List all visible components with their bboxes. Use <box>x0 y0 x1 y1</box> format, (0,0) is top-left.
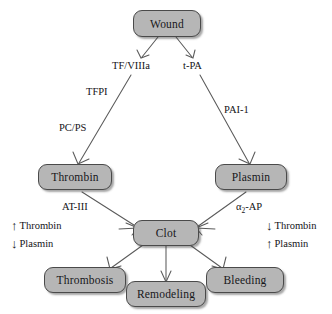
node-wound-label: Wound <box>150 18 184 30</box>
node-thrombin[interactable]: Thrombin <box>38 164 112 190</box>
edge-label-t-pa: t-PA <box>183 60 202 71</box>
annotation-left-thrombin-label: Thrombin <box>20 220 62 231</box>
annotation-left-thrombin: ↑ Thrombin <box>11 219 62 232</box>
alpha2-ap-suffix: -AP <box>245 201 262 212</box>
arrowhead-tfviiia-thrombin <box>73 152 89 164</box>
arrowhead-tpa-plasmin <box>239 152 255 164</box>
up-arrow-icon: ↑ <box>11 219 18 232</box>
node-thrombosis-label: Thrombosis <box>57 274 114 286</box>
node-clot[interactable]: Clot <box>133 220 199 246</box>
node-bleeding-label: Bleeding <box>223 274 266 286</box>
annotation-left-plasmin-label: Plasmin <box>20 238 54 249</box>
edge-tpa-plasmin <box>200 75 249 163</box>
edge-label-tfpi: TFPI <box>86 86 108 97</box>
node-clot-label: Clot <box>156 227 177 239</box>
node-wound[interactable]: Wound <box>133 10 201 37</box>
annotation-right-plasmin-label: Plasmin <box>275 238 309 249</box>
node-thrombin-label: Thrombin <box>51 171 99 183</box>
down-arrow-icon: ↓ <box>266 219 273 232</box>
edge-label-pai-1: PAI-1 <box>224 104 249 115</box>
edge-label-pc-ps: PC/PS <box>59 122 86 133</box>
edge-label-at-iii: AT-III <box>62 201 88 212</box>
node-remodeling[interactable]: Remodeling <box>126 281 206 307</box>
edge-label-tf-viiia: TF/VIIIa <box>112 60 150 71</box>
node-bleeding[interactable]: Bleeding <box>206 267 284 293</box>
annotation-right-thrombin-label: Thrombin <box>275 220 317 231</box>
down-arrow-icon: ↓ <box>11 237 18 250</box>
node-plasmin[interactable]: Plasmin <box>215 164 287 190</box>
diagram-canvas: Wound Thrombin Plasmin Clot Thrombosis R… <box>0 0 332 314</box>
up-arrow-icon: ↑ <box>266 237 273 250</box>
edge-clot-bleeding <box>190 245 222 268</box>
edge-thrombin-clot <box>82 192 137 227</box>
edge-wound-tfviiia <box>142 37 158 57</box>
annotation-left-plasmin: ↓ Plasmin <box>11 237 53 250</box>
node-thrombosis[interactable]: Thrombosis <box>44 267 126 293</box>
node-remodeling-label: Remodeling <box>137 288 195 300</box>
edge-wound-tpa <box>176 37 192 57</box>
annotation-right-thrombin: ↓ Thrombin <box>266 219 317 232</box>
edge-label-alpha2-ap: α2-AP <box>236 201 262 215</box>
node-plasmin-label: Plasmin <box>232 171 270 183</box>
annotation-right-plasmin: ↑ Plasmin <box>266 237 308 250</box>
edge-clot-thrombosis <box>111 245 143 268</box>
